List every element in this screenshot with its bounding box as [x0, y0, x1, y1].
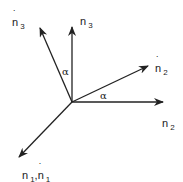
label-n3-hat: n3 [12, 17, 25, 31]
angle-alpha-vertical: α [62, 66, 69, 77]
label-n3: n3 [80, 16, 93, 30]
vector-n1 [19, 102, 72, 157]
label-n2: n2 [162, 118, 175, 132]
vector-n2-hat [72, 66, 148, 102]
vector-n3-hat [40, 28, 72, 102]
label-n2-hat: n2 [155, 63, 168, 77]
angle-alpha-horizontal: α [100, 90, 107, 101]
label-n1-n1-hat: n1,n1 [22, 170, 50, 182]
